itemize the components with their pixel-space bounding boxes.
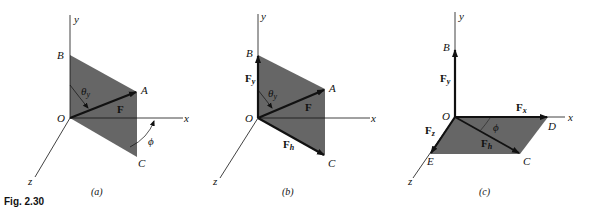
y-axis-label: y [458,10,464,22]
shaded-plane [258,55,325,155]
figure-caption: Fig. 2.30 [4,196,44,207]
z-axis-label: z [407,175,413,187]
panel-b: y x z B A O C Fy F Fh θy (b) [212,10,376,198]
x-axis-label: x [370,112,376,124]
y-axis-label: y [260,10,266,22]
panel-c-label: (c) [479,186,491,198]
origin-label: O [245,112,253,124]
point-B-label: B [443,41,450,53]
phi-label: ϕ [148,135,154,147]
panel-b-label: (b) [282,186,294,198]
point-C-label: C [138,157,146,169]
shaded-plane [70,55,137,157]
point-A-label: A [328,82,336,94]
panel-a-label: (a) [91,186,103,198]
figure-canvas: y x z B A O C F θy ϕ (a) y x z B A O C F… [0,0,603,212]
vector-Fy-label: Fy [245,72,256,86]
point-B-label: B [57,49,64,61]
origin-label: O [442,110,450,122]
z-axis-label: z [27,175,33,187]
vector-F-label: F [117,103,124,115]
point-D-label: D [547,120,556,132]
point-B-label: B [246,47,253,59]
vector-Fx-label: Fx [516,101,527,115]
panel-c: y x z B O D E C Fy Fx Fz Fh ϕ (c) [407,10,573,198]
z-axis-label: z [212,175,218,187]
z-axis [220,118,258,178]
point-C-label: C [523,155,531,167]
vector-Fh-label: Fh [283,138,295,152]
x-axis-label: x [567,111,573,123]
point-E-label: E [426,155,434,167]
origin-label: O [57,112,65,124]
y-axis-label: y [73,13,79,25]
vector-F-label: F [305,101,312,113]
x-axis-label: x [183,112,189,124]
vector-Fz-label: Fz [425,124,436,138]
vector-Fy-label: Fy [440,72,451,86]
panel-a: y x z B A O C F θy ϕ (a) [27,13,189,198]
phi-label: ϕ [493,121,499,133]
z-axis [35,118,70,177]
point-C-label: C [328,157,336,169]
point-A-label: A [140,84,148,96]
